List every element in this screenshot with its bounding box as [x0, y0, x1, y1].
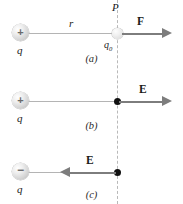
- vector-shaft: [119, 101, 163, 103]
- arrowhead-right-icon: [162, 28, 172, 38]
- plus-sign-icon: +: [17, 95, 23, 106]
- distance-connector-line-a: [23, 33, 115, 34]
- vector-shaft: [122, 33, 163, 35]
- axis-line-b: [23, 101, 118, 102]
- test-charge-label-q0: q0: [104, 40, 112, 53]
- source-charge-a: +: [12, 24, 29, 41]
- arrowhead-left-icon: [60, 167, 70, 177]
- panel-b: + q E (b): [0, 68, 183, 135]
- field-vector-label-E-c: E: [86, 155, 94, 167]
- panel-c: − q E (c): [0, 135, 183, 204]
- plus-sign-icon: +: [17, 27, 23, 38]
- source-charge-b: +: [12, 92, 29, 109]
- minus-sign-icon: −: [17, 164, 24, 176]
- panel-c-caption: (c): [0, 190, 183, 201]
- figure-canvas: P + q r q0 F (a) + q E (b): [0, 0, 183, 204]
- force-vector-label-F: F: [137, 16, 144, 28]
- field-vector-label-E-b: E: [139, 84, 147, 96]
- point-p-label: P: [112, 2, 119, 13]
- arrowhead-right-icon: [162, 96, 172, 106]
- panel-a-caption: (a): [0, 54, 183, 65]
- panel-b-caption: (b): [0, 121, 183, 132]
- panel-a: P + q r q0 F (a): [0, 0, 183, 68]
- vector-shaft: [70, 172, 116, 174]
- source-charge-c: −: [12, 163, 29, 180]
- distance-label-r: r: [69, 18, 73, 29]
